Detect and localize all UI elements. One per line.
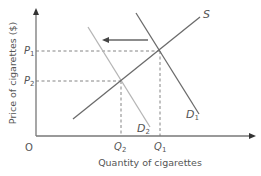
supply-label: S: [203, 8, 210, 21]
p1-label: P1: [24, 45, 35, 58]
origin-label: O: [25, 142, 33, 153]
demand-curve-d2: [88, 27, 150, 127]
p2-label: P2: [24, 75, 35, 88]
supply-demand-diagram: S D1 D2 P1 P2 Q2 Q1 O Quantity of cigare…: [0, 0, 261, 176]
q1-label: Q1: [154, 141, 166, 154]
shift-arrow-icon: [102, 37, 148, 43]
x-axis-title: Quantity of cigarettes: [98, 157, 202, 168]
q2-label: Q2: [114, 141, 126, 154]
demand-curve-d1: [136, 13, 199, 114]
x-axis-arrow-icon: [249, 133, 256, 139]
y-axis-arrow-icon: [33, 8, 39, 15]
y-axis-title: Price of cigarettes ($): [7, 22, 18, 124]
